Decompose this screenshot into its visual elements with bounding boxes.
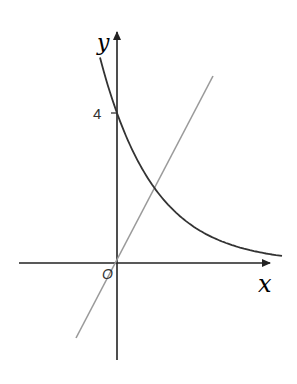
x-axis-label: x — [258, 270, 272, 298]
y-tick-label: 4 — [93, 105, 101, 122]
origin-label: O — [102, 266, 113, 282]
graph-figure: y x 4 O — [0, 0, 297, 384]
y-axis-label: y — [96, 30, 110, 55]
exponential-curve — [100, 58, 282, 256]
